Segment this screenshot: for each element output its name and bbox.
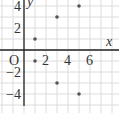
x-tick-label: 4 [64,53,71,68]
x-tick-label: 6 [86,53,93,68]
data-point [55,15,59,19]
y-tick-label: 4 [14,0,21,14]
data-point [77,92,81,96]
data-point [77,4,81,8]
scatter-chart: x y O 24642−2−4 [0,0,119,113]
data-point [33,59,37,63]
y-tick-label: 2 [14,21,21,36]
x-tick-label: 2 [42,53,49,68]
data-point [33,37,37,41]
y-tick-label: −4 [6,87,21,102]
tick-labels: 24642−2−4 [6,0,93,102]
data-point [55,81,59,85]
y-tick-label: −2 [6,65,21,80]
y-axis-label: y [25,0,34,9]
x-axis-label: x [105,34,113,49]
